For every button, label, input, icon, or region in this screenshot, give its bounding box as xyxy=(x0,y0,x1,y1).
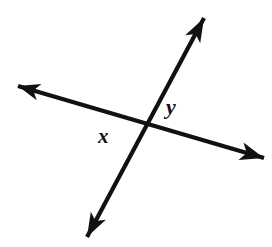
geometry-diagram: x y xyxy=(0,0,272,247)
geometry-canvas xyxy=(0,0,272,247)
angle-label-x: x xyxy=(98,126,109,147)
angle-label-y: y xyxy=(166,96,176,118)
diagram-background xyxy=(0,0,272,247)
